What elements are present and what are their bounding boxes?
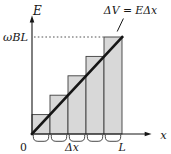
riemann-sum-diagram: ΔV = EΔx E ωBL 0 Δx L x [0, 0, 171, 154]
riemann-bar [104, 37, 122, 134]
origin-label: 0 [20, 141, 27, 154]
riemann-bar [50, 95, 68, 134]
y-tick-label: ωBL [3, 31, 28, 44]
x-end-label: L [117, 141, 125, 154]
interval-width-label: Δx [64, 141, 79, 154]
interval-brace [87, 135, 102, 141]
riemann-sum-figure: ΔV = EΔx E ωBL 0 Δx L x [0, 0, 171, 154]
x-axis-label: x [160, 128, 167, 142]
annotation-label: ΔV = EΔx [103, 4, 157, 17]
x-axis-arrow-icon [145, 132, 152, 137]
interval-brace [33, 135, 48, 141]
annotation-leader-line [117, 19, 123, 32]
y-axis-label: E [32, 4, 42, 18]
